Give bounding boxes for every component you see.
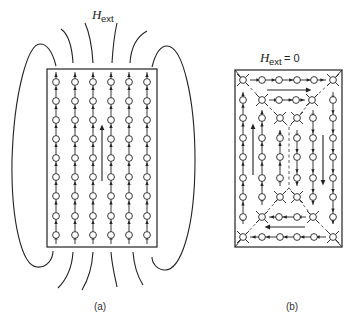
arrowhead-down — [331, 169, 334, 173]
dipole-circle — [277, 154, 284, 161]
arrowhead-up — [241, 142, 244, 146]
dipole-circle — [310, 154, 317, 161]
dipole-circle — [126, 213, 133, 220]
canted-dipole-circle — [277, 194, 284, 201]
arrowhead-right — [307, 78, 311, 81]
dipole-circle — [294, 234, 301, 241]
arrowhead-down — [311, 189, 314, 193]
dipole-circle — [90, 155, 97, 162]
dipole-circle — [144, 155, 151, 162]
arrowhead-up — [91, 86, 94, 90]
arrowhead-up — [145, 220, 148, 224]
arrowhead-up — [73, 143, 76, 147]
arrowhead-up — [54, 73, 57, 77]
arrowhead-up — [241, 104, 244, 108]
arrowhead-up — [54, 86, 57, 90]
dipole-circle — [294, 214, 301, 221]
arrowhead-up — [109, 162, 112, 166]
dipole-circle — [53, 117, 60, 124]
dipole-circle — [277, 135, 284, 142]
arrowhead-up — [241, 182, 244, 186]
arrowhead-up — [91, 105, 94, 109]
arrowhead-up — [91, 162, 94, 166]
dipole-circle — [108, 136, 115, 143]
dipole-circle — [126, 117, 133, 124]
arrowhead-down — [331, 209, 334, 213]
field-relation: = 0 — [284, 52, 300, 64]
arrowhead-up — [73, 73, 76, 77]
dipole-circle — [330, 154, 337, 161]
dipole-circle — [277, 175, 284, 182]
arrowhead-up — [127, 201, 130, 205]
dipole-circle — [108, 98, 115, 105]
arrowhead-right — [289, 78, 293, 81]
arrowhead-up — [54, 105, 57, 109]
dipole-circle — [240, 194, 247, 201]
dipole-circle — [53, 155, 60, 162]
arrowhead-down — [311, 169, 314, 173]
dipole-circle — [144, 136, 151, 143]
dipole-circle — [72, 79, 79, 86]
dipole-circle — [144, 117, 151, 124]
arrowhead-up — [54, 143, 57, 147]
dipole-circle — [259, 234, 266, 241]
dipole-circle — [108, 213, 115, 220]
arrowhead-down — [311, 149, 314, 153]
arrowhead-up — [145, 181, 148, 185]
arrowhead-up — [145, 143, 148, 147]
magnetic-domain-figure: H ext (a) H ext = 0 (b) — [0, 0, 351, 323]
arrowhead-up — [91, 73, 94, 77]
arrowhead-up — [91, 143, 94, 147]
arrowhead-up — [73, 86, 76, 90]
dipole-circle — [126, 174, 133, 181]
arrowhead-left — [284, 235, 288, 238]
arrowhead-left — [266, 235, 270, 238]
dipole-circle — [294, 154, 301, 161]
dipole-circle — [259, 175, 266, 182]
arrowhead-up — [109, 220, 112, 224]
canted-dipole-circle — [294, 194, 301, 201]
arrowhead-left — [301, 235, 305, 238]
arrowhead-up — [109, 124, 112, 128]
dipole-circle — [108, 79, 115, 86]
field-label-b: H ext = 0 — [259, 48, 300, 68]
dipole-circle — [144, 193, 151, 200]
arrowhead-up — [54, 220, 57, 224]
arrowhead-up — [73, 220, 76, 224]
dipole-circle — [72, 174, 79, 181]
canted-dipole-circle — [240, 234, 247, 241]
dipole-circle — [310, 194, 317, 201]
dipole-circle — [53, 213, 60, 220]
field-subscript: ext — [101, 13, 114, 24]
arrowhead-left — [265, 225, 270, 230]
caption-a: (a) — [94, 301, 106, 312]
dipole-circle — [277, 234, 284, 241]
dipole-circle — [310, 135, 317, 142]
dipole-circle — [240, 97, 247, 104]
dipole-circle — [330, 214, 337, 221]
arrowhead-up — [241, 162, 244, 166]
dipole-circle — [90, 193, 97, 200]
arrowhead-up — [91, 201, 94, 205]
arrowhead-up — [127, 181, 130, 185]
arrowhead-up — [109, 105, 112, 109]
dipole-circle — [53, 232, 60, 239]
arrowhead-up — [145, 201, 148, 205]
dipole-lattice-b — [237, 74, 339, 243]
field-line — [112, 23, 117, 63]
arrowhead-left — [283, 215, 287, 218]
arrowhead-up — [109, 181, 112, 185]
sample-outline-b — [235, 70, 342, 247]
dipole-circle — [276, 77, 283, 84]
arrowhead-up — [260, 162, 263, 166]
dipole-circle — [108, 232, 115, 239]
arrowhead-up — [145, 73, 148, 77]
dipole-circle — [240, 115, 247, 122]
arrowhead-down — [311, 201, 314, 205]
field-line — [58, 252, 73, 288]
arrowhead-up — [127, 105, 130, 109]
dipole-circle — [330, 194, 337, 201]
dipole-circle — [53, 174, 60, 181]
dipole-circle — [240, 214, 247, 221]
dipole-circle — [72, 98, 79, 105]
